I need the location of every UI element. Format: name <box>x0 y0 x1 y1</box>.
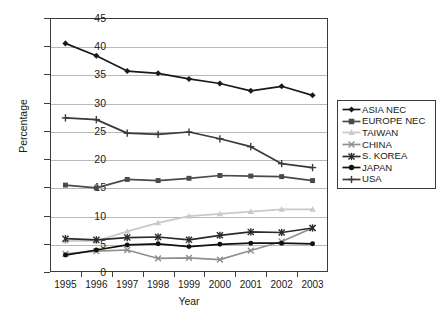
x-axis-label: 2003 <box>293 279 333 290</box>
legend-item-taiwan[interactable]: TAIWAN <box>341 127 433 139</box>
y-axis-title: Percentage <box>17 81 29 171</box>
legend-label: TAIWAN <box>362 128 398 138</box>
data-point <box>217 173 222 178</box>
data-point <box>217 80 223 86</box>
data-point <box>155 70 161 76</box>
data-point <box>217 242 222 247</box>
x-axis-tick <box>266 272 267 277</box>
data-point <box>125 242 130 247</box>
legend-label: S. KOREA <box>362 151 407 161</box>
series-europe-nec <box>63 173 315 190</box>
data-point <box>62 114 69 121</box>
data-point <box>279 83 285 89</box>
data-point <box>185 128 192 135</box>
data-point <box>310 178 315 183</box>
legend-marker-star-icon <box>341 151 362 162</box>
y-axis-tick <box>44 272 50 273</box>
legend-label: JAPAN <box>362 163 392 173</box>
data-point <box>216 135 223 142</box>
data-point <box>310 241 315 246</box>
series-layer <box>50 18 328 272</box>
data-point <box>247 143 254 150</box>
legend: ASIA NECEUROPE NECTAIWANCHINAS. KOREAJAP… <box>337 100 436 189</box>
legend-item-asia-nec[interactable]: ASIA NEC <box>341 104 433 116</box>
data-point <box>278 160 285 167</box>
legend-label: USA <box>362 174 382 184</box>
legend-item-europe-nec[interactable]: EUROPE NEC <box>341 116 433 128</box>
data-point <box>156 178 161 183</box>
x-axis-tick <box>235 272 236 277</box>
line-chart: 051015202530354045 199519961997199819992… <box>0 0 440 318</box>
legend-marker-cross-icon <box>341 139 362 150</box>
data-point <box>186 76 192 82</box>
data-point <box>248 88 254 94</box>
data-point <box>93 116 100 123</box>
legend-item-japan[interactable]: JAPAN <box>341 162 433 174</box>
x-axis-tick <box>112 272 113 277</box>
data-point <box>124 68 130 74</box>
data-point <box>124 130 131 137</box>
data-point <box>154 131 161 138</box>
x-axis-title: Year <box>50 295 328 307</box>
x-axis-tick <box>297 272 298 277</box>
x-axis-tick <box>174 272 175 277</box>
legend-item-s-korea[interactable]: S. KOREA <box>341 150 433 162</box>
data-point <box>62 40 68 46</box>
series-line <box>65 43 312 95</box>
series-usa <box>62 114 316 171</box>
data-point <box>309 164 316 171</box>
x-axis-tick <box>143 272 144 277</box>
series-line <box>65 118 312 168</box>
data-point <box>279 241 284 246</box>
data-point <box>94 248 99 253</box>
x-axis-tick <box>81 272 82 277</box>
legend-item-china[interactable]: CHINA <box>341 139 433 151</box>
data-point <box>63 183 68 188</box>
data-point <box>156 241 161 246</box>
data-point <box>279 174 284 179</box>
legend-marker-circle-icon <box>341 162 362 173</box>
data-point <box>248 174 253 179</box>
legend-label: ASIA NEC <box>362 105 406 115</box>
data-point <box>94 185 99 190</box>
legend-label: CHINA <box>362 140 392 150</box>
x-axis-tick <box>204 272 205 277</box>
data-point <box>93 53 99 59</box>
legend-marker-diamond-icon <box>341 104 362 115</box>
legend-marker-triangle-icon <box>341 127 362 138</box>
series-asia-nec <box>62 40 315 98</box>
data-point <box>63 253 68 258</box>
data-point <box>187 244 192 249</box>
legend-item-usa[interactable]: USA <box>341 174 433 186</box>
legend-label: EUROPE NEC <box>362 116 425 126</box>
data-point <box>310 92 316 98</box>
data-point <box>125 177 130 182</box>
series-s-korea <box>62 224 315 243</box>
data-point <box>248 241 253 246</box>
data-point <box>187 176 192 181</box>
legend-marker-square-icon <box>341 116 362 127</box>
legend-marker-plus-icon <box>341 174 362 185</box>
